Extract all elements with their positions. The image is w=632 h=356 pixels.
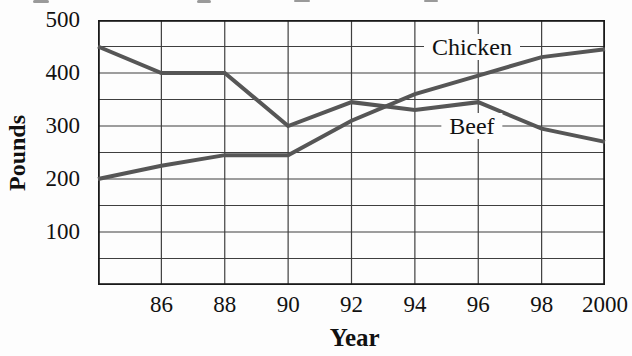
cropped-text-fragment	[197, 0, 211, 3]
x-tick-label-2000: 2000	[582, 293, 628, 317]
cropped-text-fragment	[294, 0, 310, 2]
x-tick-label-96: 96	[467, 293, 490, 317]
x-axis-title: Year	[330, 324, 380, 352]
y-tick-label-500: 500	[0, 7, 88, 33]
y-axis-title: Pounds	[3, 73, 31, 233]
x-tick-label-90: 90	[277, 293, 300, 317]
series-label-beef: Beef	[441, 113, 502, 139]
x-tick-label-92: 92	[340, 293, 363, 317]
cropped-text-fragment	[33, 0, 49, 3]
x-tick-label-98: 98	[530, 293, 553, 317]
plot-area	[98, 20, 605, 285]
x-tick-label-88: 88	[213, 293, 236, 317]
series-label-chicken: Chicken	[424, 34, 520, 60]
x-tick-label-86: 86	[150, 293, 173, 317]
cropped-text-fragment	[424, 0, 438, 2]
line-chart-figure: 500400300200100 868890929496982000 Pound…	[0, 0, 632, 356]
x-tick-label-94: 94	[403, 293, 426, 317]
